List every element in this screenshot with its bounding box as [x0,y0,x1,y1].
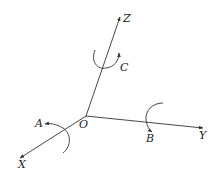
coordinate-diagram: Z Y X O C B A [0,0,218,183]
origin-label: O [79,118,88,131]
z-axis [86,17,120,116]
rotation-b-arrow-icon [146,103,163,132]
x-axis-label: X [17,158,27,171]
rotation-c-arrow-icon [93,50,119,68]
rotation-a-arrow-icon [45,124,69,153]
rotation-b-label: B [145,132,154,145]
x-axis [20,116,86,158]
z-axis-label: Z [122,12,131,25]
axes-canvas: Z Y X O C B A [0,0,218,183]
rotation-c-label: C [120,61,129,74]
y-axis-label: Y [199,129,208,142]
rotation-a-label: A [34,117,43,130]
y-axis [86,116,203,128]
